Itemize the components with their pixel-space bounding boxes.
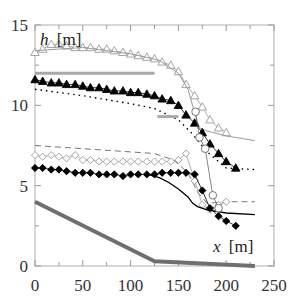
- diamond-marker: [151, 158, 158, 165]
- triangle-marker: [158, 95, 166, 102]
- diamond-marker: [31, 164, 38, 171]
- diamond-marker: [182, 169, 189, 176]
- diamond-marker: [55, 153, 62, 160]
- diamond-marker: [159, 158, 166, 165]
- diamond-marker: [87, 156, 94, 163]
- diamond-marker: [48, 166, 55, 173]
- bed-line: [35, 202, 255, 266]
- diamond-marker: [55, 166, 62, 173]
- diamond-marker: [79, 169, 86, 176]
- diamond-marker: [135, 171, 142, 178]
- diamond-marker: [111, 171, 118, 178]
- triangle-marker: [167, 61, 175, 68]
- y-tick-label: 10: [11, 96, 28, 115]
- diamond-marker: [63, 155, 70, 162]
- diamond-marker: [199, 187, 206, 194]
- diamond-marker: [95, 171, 102, 178]
- triangle-marker: [95, 83, 103, 90]
- circle-marker: [215, 204, 223, 212]
- triangle-marker: [232, 164, 240, 171]
- x-tick-label: 200: [213, 276, 239, 295]
- diamond-marker: [39, 153, 46, 160]
- series-filled-diamonds: [31, 164, 239, 229]
- plot-area: 050100150200250051015 h [m] x [m]: [0, 0, 299, 301]
- diamond-marker: [31, 152, 38, 159]
- diamond-marker: [103, 171, 110, 178]
- y-tick-label: 5: [20, 177, 29, 196]
- series-solid-line: [148, 174, 255, 214]
- x-tick-label: 150: [166, 276, 192, 295]
- diamond-marker: [223, 217, 230, 224]
- x-tick-label: 0: [31, 276, 40, 295]
- diamond-marker: [79, 156, 86, 163]
- x-tick-label: 250: [261, 276, 287, 295]
- triangle-marker: [134, 88, 142, 95]
- diamond-marker: [103, 158, 110, 165]
- triangle-marker: [174, 101, 182, 108]
- y-tick-label: 0: [20, 257, 29, 276]
- circle-marker: [209, 192, 217, 200]
- triangle-marker: [190, 91, 198, 98]
- triangle-marker: [86, 43, 94, 50]
- diamond-marker: [175, 169, 182, 176]
- data-series: [31, 40, 255, 266]
- diamond-marker: [143, 158, 150, 165]
- x-axis-title: x [m]: [212, 237, 253, 256]
- triangle-marker: [119, 87, 127, 94]
- triangle-marker: [206, 116, 214, 123]
- y-tick-label: 15: [11, 16, 28, 35]
- diamond-marker: [95, 158, 102, 165]
- diamond-marker: [72, 152, 79, 159]
- triangle-marker: [198, 103, 206, 110]
- diamond-marker: [127, 171, 134, 178]
- diamond-marker: [111, 158, 118, 165]
- chart-container: 050100150200250051015 h [m] x [m]: [0, 0, 299, 301]
- diamond-marker: [48, 152, 55, 159]
- triangle-marker: [55, 79, 63, 86]
- circle-marker: [192, 108, 200, 116]
- circle-marker: [201, 145, 209, 153]
- circle-marker: [196, 134, 204, 142]
- line: [148, 174, 255, 214]
- diamond-marker: [223, 198, 230, 205]
- diamond-marker: [119, 172, 126, 179]
- x-tick-label: 50: [74, 276, 91, 295]
- y-axis-title: h [m]: [40, 30, 81, 49]
- triangle-marker: [71, 80, 79, 87]
- x-tick-label: 100: [118, 276, 144, 295]
- diamond-marker: [87, 169, 94, 176]
- series-bed-profile: [35, 202, 255, 266]
- diamond-marker: [127, 158, 134, 165]
- diamond-marker: [39, 164, 46, 171]
- diamond-marker: [232, 222, 239, 229]
- triangle-marker: [31, 75, 39, 82]
- diamond-marker: [167, 169, 174, 176]
- diamond-marker: [63, 168, 70, 175]
- series-open-diamonds: [31, 150, 229, 213]
- diamond-marker: [167, 158, 174, 165]
- triangle-marker: [31, 48, 39, 55]
- diamond-marker: [119, 158, 126, 165]
- diamond-marker: [72, 169, 79, 176]
- diamond-marker: [135, 158, 142, 165]
- diamond-marker: [159, 169, 166, 176]
